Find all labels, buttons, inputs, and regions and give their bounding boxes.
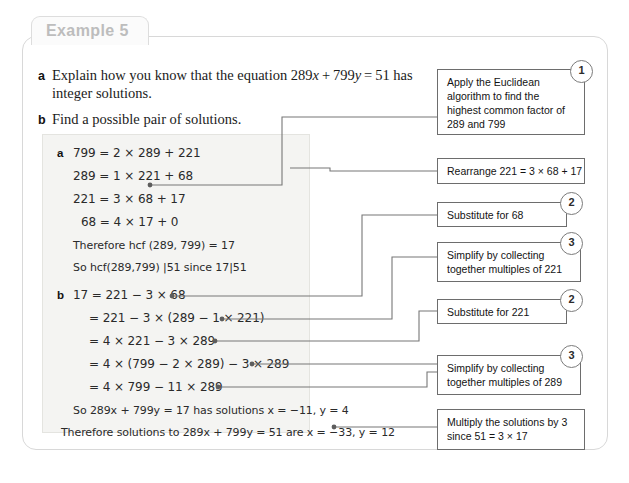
example-tab-label: Example 5 bbox=[46, 22, 129, 40]
note-euclidean-line-3: highest common factor of bbox=[447, 103, 576, 117]
note-multiply-line-1: Multiply the solutions by 3 bbox=[447, 415, 576, 429]
question-a-text: Explain how you know that the equation 2… bbox=[52, 66, 432, 102]
note-simplify-289-line-1: Simplify by collecting bbox=[447, 361, 572, 375]
step-number-2b: 2 bbox=[560, 289, 583, 312]
working-panel: a 799 = 2 × 289 + 221 289 = 1 × 221 + 68… bbox=[42, 134, 310, 433]
note-euclidean-line-2: algorithm to find the bbox=[447, 89, 576, 103]
note-simplify-221-line-1: Simplify by collecting bbox=[447, 248, 572, 262]
step-number-2a: 2 bbox=[560, 192, 583, 215]
working-a-line-4: 68 = 4 × 17 + 0 bbox=[81, 215, 178, 229]
working-a-line-6: So hcf(289,799) |51 since 17|51 bbox=[73, 261, 247, 274]
note-substitute-68: Substitute for 68 bbox=[437, 202, 567, 227]
step-number-1: 1 bbox=[570, 60, 593, 83]
note-euclidean-line-4: 289 and 799 bbox=[447, 117, 576, 131]
question-a-letter: a bbox=[38, 66, 52, 85]
working-a-line-1: 799 = 2 × 289 + 221 bbox=[73, 146, 201, 160]
working-b-line-1: 17 = 221 − 3 × 68 bbox=[73, 288, 185, 302]
working-b-line-2: = 221 − 3 × (289 − 1 × 221) bbox=[89, 311, 264, 325]
note-simplify-221: Simplify by collecting together multiple… bbox=[437, 242, 581, 282]
note-euclidean: Apply the Euclidean algorithm to find th… bbox=[437, 69, 585, 135]
note-simplify-221-line-2: together multiples of 221 bbox=[447, 262, 572, 276]
note-multiply: Multiply the solutions by 3 since 51 = 3… bbox=[437, 409, 585, 450]
working-b-line-4: = 4 × (799 − 2 × 289) − 3 × 289 bbox=[89, 357, 289, 371]
note-substitute-221: Substitute for 221 bbox=[437, 299, 567, 324]
working-a-line-5: Therefore hcf (289, 799) = 17 bbox=[73, 239, 235, 252]
note-rearrange-line-1: Rearrange 221 = 3 × 68 + 17 bbox=[447, 164, 576, 178]
note-multiply-line-2: since 51 = 3 × 17 bbox=[447, 429, 576, 443]
working-part-b-letter: b bbox=[57, 289, 64, 301]
working-b-line-5: = 4 × 799 − 11 × 289 bbox=[89, 380, 223, 394]
working-b-line-6: So 289x + 799y = 17 has solutions x = −1… bbox=[73, 404, 349, 417]
note-rearrange: Rearrange 221 = 3 × 68 + 17 bbox=[437, 158, 585, 184]
working-part-a-letter: a bbox=[57, 147, 63, 159]
step-number-3b: 3 bbox=[560, 345, 583, 368]
note-substitute-221-line-1: Substitute for 221 bbox=[447, 305, 558, 319]
working-b-line-3: = 4 × 221 − 3 × 289 bbox=[89, 334, 215, 348]
question-b-text: Find a possible pair of solutions. bbox=[52, 110, 241, 128]
example-tab: Example 5 bbox=[31, 16, 149, 45]
working-a-line-3: 221 = 3 × 68 + 17 bbox=[73, 192, 185, 206]
note-simplify-289: Simplify by collecting together multiple… bbox=[437, 355, 581, 395]
question-b: b Find a possible pair of solutions. bbox=[38, 110, 241, 129]
question-a: a Explain how you know that the equation… bbox=[38, 66, 432, 102]
working-b-line-7: Therefore solutions to 289x + 799y = 51 … bbox=[61, 426, 395, 439]
working-a-line-2: 289 = 1 × 221 + 68 bbox=[73, 169, 193, 183]
question-b-letter: b bbox=[38, 110, 52, 129]
note-simplify-289-line-2: together multiples of 289 bbox=[447, 375, 572, 389]
note-substitute-68-line-1: Substitute for 68 bbox=[447, 208, 558, 222]
note-euclidean-line-1: Apply the Euclidean bbox=[447, 75, 576, 89]
step-number-3a: 3 bbox=[560, 232, 583, 255]
